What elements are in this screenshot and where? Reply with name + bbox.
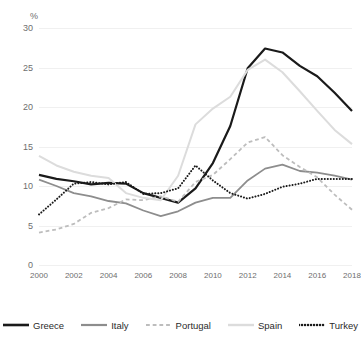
legend-swatch-turkey-icon — [299, 321, 325, 329]
gridline — [39, 265, 352, 266]
legend-swatch-spain-icon — [228, 321, 254, 329]
x-axis-tick-label: 2014 — [273, 271, 291, 280]
y-axis-unit-label: % — [30, 11, 38, 21]
x-axis-tick-label: 2006 — [134, 271, 152, 280]
y-axis-tick-label: 5 — [28, 221, 33, 231]
x-axis-tick-label: 2016 — [308, 271, 326, 280]
legend-item-portugal[interactable]: Portugal — [146, 320, 211, 331]
line-chart: % 051015202530 2000200220042006200820102… — [0, 0, 361, 355]
legend-swatch-greece-icon — [3, 321, 29, 329]
x-axis-tick-label: 2000 — [30, 271, 48, 280]
legend-label: Italy — [111, 320, 128, 331]
plot-area: 051015202530 200020022004200620082010201… — [39, 28, 352, 265]
legend-swatch-italy-icon — [81, 321, 107, 329]
legend-item-greece[interactable]: Greece — [3, 320, 64, 331]
legend-item-spain[interactable]: Spain — [228, 320, 282, 331]
y-axis-tick-label: 25 — [23, 63, 33, 73]
x-axis-tick-label: 2012 — [239, 271, 257, 280]
legend-label: Greece — [33, 320, 64, 331]
x-axis-tick-label: 2002 — [65, 271, 83, 280]
legend-swatch-portugal-icon — [146, 321, 172, 329]
x-axis-tick-label: 2008 — [169, 271, 187, 280]
legend-item-turkey[interactable]: Turkey — [299, 320, 358, 331]
y-axis-tick-label: 15 — [23, 142, 33, 152]
series-line-spain — [39, 60, 352, 201]
y-axis-tick-label: 20 — [23, 102, 33, 112]
legend-item-italy[interactable]: Italy — [81, 320, 128, 331]
y-axis-tick-label: 0 — [28, 260, 33, 270]
legend-label: Spain — [258, 320, 282, 331]
x-axis-tick-label: 2018 — [343, 271, 361, 280]
series-line-italy — [39, 165, 352, 216]
y-axis-tick-label: 30 — [23, 23, 33, 33]
x-axis-tick-label: 2004 — [100, 271, 118, 280]
series-lines — [39, 28, 352, 265]
series-line-turkey — [39, 165, 352, 214]
y-axis-tick-label: 10 — [23, 181, 33, 191]
chart-title — [0, 0, 361, 9]
chart-legend: GreeceItalyPortugalSpainTurkey — [0, 315, 361, 335]
legend-label: Turkey — [329, 320, 358, 331]
x-axis-tick-label: 2010 — [204, 271, 222, 280]
series-line-portugal — [39, 137, 352, 233]
legend-label: Portugal — [176, 320, 211, 331]
